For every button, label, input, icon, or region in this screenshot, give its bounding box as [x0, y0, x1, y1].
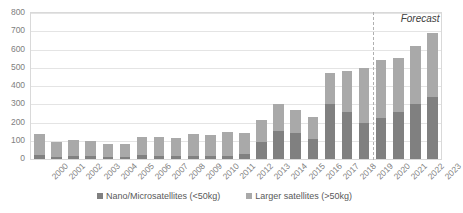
bar-segment-nano[interactable] — [256, 142, 267, 159]
bar-segment-larger[interactable] — [205, 135, 216, 156]
bar-segment-larger[interactable] — [256, 120, 267, 142]
bar-group[interactable] — [342, 71, 353, 159]
x-tick-label: 2009 — [204, 161, 224, 181]
x-tick-label: 2012 — [255, 161, 275, 181]
bar-segment-larger[interactable] — [68, 140, 79, 156]
bar-segment-nano[interactable] — [222, 156, 233, 159]
bar-group[interactable] — [188, 134, 199, 159]
bar-segment-nano[interactable] — [85, 156, 96, 159]
bar-segment-nano[interactable] — [410, 104, 421, 159]
bar-group[interactable] — [239, 133, 250, 159]
bar-group[interactable] — [154, 137, 165, 159]
bar-group[interactable] — [205, 135, 216, 159]
bar-segment-nano[interactable] — [103, 157, 114, 159]
legend-swatch-larger — [246, 193, 252, 199]
x-tick-label: 2002 — [84, 161, 104, 181]
bar-group[interactable] — [137, 137, 148, 159]
bar-segment-nano[interactable] — [325, 104, 336, 159]
legend-label-nano: Nano/Microsatellites (<50kg) — [106, 191, 220, 201]
bar-segment-larger[interactable] — [188, 134, 199, 156]
x-tick-label: 2017 — [340, 161, 360, 181]
legend-item-nano: Nano/Microsatellites (<50kg) — [97, 191, 220, 201]
bar-segment-larger[interactable] — [427, 33, 438, 97]
bar-segment-larger[interactable] — [34, 134, 45, 155]
y-tick-label: 0 — [20, 153, 25, 163]
bar-segment-larger[interactable] — [103, 144, 114, 157]
bar-group[interactable] — [359, 68, 370, 159]
bar-segment-nano[interactable] — [393, 112, 404, 159]
bar-group[interactable] — [393, 58, 404, 159]
bar-group[interactable] — [34, 134, 45, 159]
bar-segment-larger[interactable] — [222, 132, 233, 155]
bar-group[interactable] — [256, 120, 267, 159]
bar-segment-larger[interactable] — [359, 68, 370, 123]
bar-group[interactable] — [222, 132, 233, 159]
bar-segment-nano[interactable] — [290, 133, 301, 159]
bar-segment-larger[interactable] — [290, 110, 301, 133]
bar-group[interactable] — [308, 117, 319, 159]
bar-segment-larger[interactable] — [342, 71, 353, 111]
bar-segment-nano[interactable] — [34, 155, 45, 159]
bar-segment-larger[interactable] — [137, 137, 148, 155]
bar-group[interactable] — [51, 142, 62, 159]
bar-group[interactable] — [325, 73, 336, 159]
bar-group[interactable] — [103, 144, 114, 159]
bar-group[interactable] — [85, 141, 96, 159]
x-tick-label: 2008 — [187, 161, 207, 181]
bar-segment-larger[interactable] — [376, 60, 387, 117]
bar-segment-nano[interactable] — [205, 156, 216, 159]
x-tick-label: 2000 — [50, 161, 70, 181]
bar-segment-larger[interactable] — [85, 141, 96, 156]
bar-segment-nano[interactable] — [308, 139, 319, 159]
x-tick-label: 2021 — [409, 161, 429, 181]
bar-segment-larger[interactable] — [273, 104, 284, 131]
bar-group[interactable] — [68, 140, 79, 159]
bar-segment-nano[interactable] — [137, 155, 148, 159]
bar-segment-nano[interactable] — [273, 131, 284, 159]
bar-segment-nano[interactable] — [376, 118, 387, 159]
bar-group[interactable] — [410, 46, 421, 159]
bar-segment-nano[interactable] — [68, 156, 79, 159]
x-axis: 2000200120022003200420052006200720082009… — [31, 161, 441, 191]
bar-group[interactable] — [376, 60, 387, 159]
bar-segment-nano[interactable] — [188, 156, 199, 159]
bar-segment-nano[interactable] — [239, 154, 250, 159]
y-tick-label: 300 — [11, 98, 25, 108]
bar-group[interactable] — [290, 110, 301, 159]
y-tick-label: 100 — [11, 135, 25, 145]
bar-group[interactable] — [120, 144, 131, 159]
bar-segment-nano[interactable] — [120, 157, 131, 159]
bar-segment-larger[interactable] — [51, 142, 62, 157]
x-tick-label: 2005 — [135, 161, 155, 181]
x-tick-label: 2007 — [169, 161, 189, 181]
bar-segment-larger[interactable] — [325, 73, 336, 104]
bar-segment-nano[interactable] — [51, 157, 62, 159]
x-tick-label: 2013 — [272, 161, 292, 181]
x-tick-label: 2014 — [289, 161, 309, 181]
x-tick-label: 2018 — [357, 161, 377, 181]
bar-segment-larger[interactable] — [239, 133, 250, 153]
x-tick-label: 2015 — [306, 161, 326, 181]
y-tick-label: 800 — [11, 7, 25, 17]
y-tick-label: 400 — [11, 80, 25, 90]
y-tick-label: 500 — [11, 62, 25, 72]
bar-segment-larger[interactable] — [171, 138, 182, 156]
bar-segment-nano[interactable] — [342, 112, 353, 159]
bar-group[interactable] — [171, 138, 182, 159]
bar-segment-nano[interactable] — [154, 156, 165, 159]
bar-segment-larger[interactable] — [410, 46, 421, 104]
bar-segment-larger[interactable] — [308, 117, 319, 139]
bar-segment-larger[interactable] — [154, 137, 165, 156]
x-tick-label: 2023 — [443, 161, 463, 181]
bar-segment-nano[interactable] — [359, 123, 370, 159]
chart-legend: Nano/Microsatellites (<50kg) Larger sate… — [0, 191, 449, 201]
bar-segment-larger[interactable] — [393, 58, 404, 111]
bar-group[interactable] — [427, 33, 438, 159]
y-tick-label: 600 — [11, 44, 25, 54]
bar-segment-nano[interactable] — [427, 97, 438, 159]
bar-segment-nano[interactable] — [171, 156, 182, 159]
bars-layer — [31, 13, 441, 159]
bar-segment-larger[interactable] — [120, 144, 131, 157]
bar-group[interactable] — [273, 104, 284, 159]
